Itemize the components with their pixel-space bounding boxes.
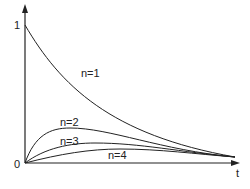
curve-n2 bbox=[25, 128, 235, 163]
curve-label-n1: n=1 bbox=[81, 68, 100, 79]
curve-label-n4: n=4 bbox=[108, 150, 127, 161]
y-axis-arrow-icon bbox=[22, 4, 28, 13]
x-axis-arrow-icon bbox=[231, 160, 240, 166]
y-tick-1: 1 bbox=[14, 20, 20, 31]
x-axis-label: t bbox=[236, 168, 239, 179]
curve-n4 bbox=[25, 149, 235, 163]
curve-label-n3: n=3 bbox=[60, 136, 79, 147]
curve-label-n2: n=2 bbox=[60, 117, 79, 128]
origin-label: 0 bbox=[14, 159, 20, 170]
